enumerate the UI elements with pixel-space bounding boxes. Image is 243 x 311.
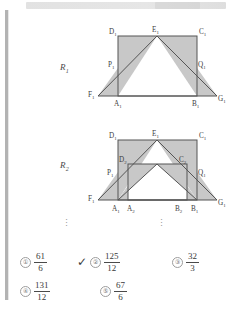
figure-r1: R1 D1 E1 C1 P1 Q1 F1 A1 B1 G1	[0, 12, 243, 110]
r1-label-D1: D1	[109, 28, 117, 37]
figure-r2: R2	[0, 112, 243, 214]
figure-r2-label: R2	[60, 160, 69, 172]
r1-label-C1: C1	[199, 28, 207, 37]
answer-option-3[interactable]: ③ 32 3	[172, 252, 199, 274]
r2-label-B2: B2	[175, 205, 183, 214]
answer-4-denominator: 12	[36, 293, 47, 302]
answer-5-numerator: 67	[115, 281, 126, 290]
selected-answer-checkmark: ✓	[77, 255, 87, 269]
answer-1-number: ①	[20, 257, 31, 268]
answer-2-fraction: 125 12	[104, 252, 120, 274]
r2-label-C1: C1	[199, 132, 207, 141]
answer-3-denominator: 3	[189, 264, 196, 273]
answer-5-fraction: 67 6	[114, 281, 127, 303]
question-page: R1 D1 E1 C1 P1 Q1 F1 A1 B1 G1	[0, 0, 243, 311]
r1-label-G1: G1	[218, 95, 226, 104]
r1-label-A1: A1	[114, 100, 122, 109]
r2-label-F1: F1	[88, 195, 95, 204]
answer-1-denominator: 6	[37, 264, 44, 273]
answer-3-fraction: 32 3	[186, 252, 199, 274]
r1-right-outer-triangle	[197, 68, 217, 96]
answer-3-numerator: 32	[187, 252, 198, 261]
answer-option-1[interactable]: ① 61 6	[20, 252, 47, 274]
figure-r2-drawing: D1 E1 C1 D2 C2 P1 Q1 F1 A1 A2 B2 B1 G1	[0, 112, 243, 214]
answer-2-numerator: 125	[104, 252, 120, 261]
answer-5-number: ⑤	[100, 286, 111, 297]
r2-label-P1: P1	[107, 169, 114, 178]
answer-option-2[interactable]: ② 125 12	[90, 252, 120, 274]
answer-option-5[interactable]: ⑤ 67 6	[100, 281, 127, 303]
answer-option-4[interactable]: ④ 131 12	[20, 281, 50, 303]
answer-1-fraction: 61 6	[34, 252, 47, 274]
header-strip-text-blur	[155, 2, 200, 9]
ellipsis-right: ⋮	[157, 222, 161, 226]
figure-r1-drawing: D1 E1 C1 P1 Q1 F1 A1 B1 G1	[0, 12, 243, 110]
r1-label-Q1: Q1	[198, 61, 206, 70]
answer-5-denominator: 6	[117, 293, 124, 302]
r2-label-B1: B1	[191, 205, 199, 214]
r2-label-A2: A2	[127, 205, 135, 214]
answer-4-numerator: 131	[34, 281, 50, 290]
r2-label-E1: E1	[152, 130, 159, 139]
r1-label-P1: P1	[108, 61, 115, 70]
r1-rect-left-shade	[118, 36, 157, 96]
answer-2-number: ②	[90, 257, 101, 268]
r1-label-E1: E1	[152, 26, 159, 35]
figure-r1-label: R1	[60, 62, 69, 74]
r2-label-Q1: Q1	[198, 169, 206, 178]
r2-label-A1: A1	[112, 205, 120, 214]
ellipsis-left: ⋮	[62, 222, 66, 226]
r1-label-B1: B1	[192, 100, 200, 109]
answer-4-number: ④	[20, 286, 31, 297]
r1-left-outer-triangle	[98, 68, 118, 96]
answer-options: ① 61 6 ✓ ② 125 12 ③ 32 3 ④	[0, 240, 243, 306]
r1-rect-right-shade	[157, 36, 197, 96]
answer-3-number: ③	[172, 257, 183, 268]
answer-2-denominator: 12	[106, 264, 117, 273]
answer-4-fraction: 131 12	[34, 281, 50, 303]
r1-label-F1: F1	[88, 91, 95, 100]
r2-label-D1: D1	[109, 132, 117, 141]
answer-1-numerator: 61	[35, 252, 46, 261]
r2-label-G1: G1	[218, 199, 226, 208]
